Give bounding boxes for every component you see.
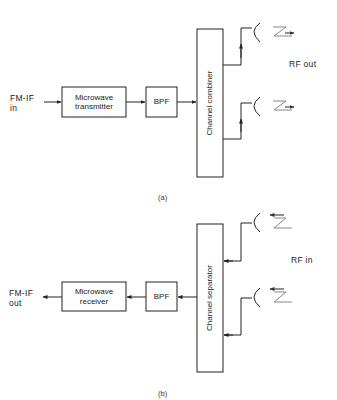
fm-if-in-label: FM-IF in	[10, 94, 34, 113]
fm-if-out-label: FM-IF out	[9, 289, 33, 308]
receiver-line1: Microwave	[75, 287, 113, 297]
wave-icon-upper	[273, 27, 292, 36]
antenna-dish-lower-b	[254, 288, 260, 307]
antenna-dish-lower	[254, 97, 260, 116]
receiver-label: Microwave receiver	[62, 282, 126, 311]
antenna-dish-upper	[254, 23, 260, 42]
fm-if-in-line2: in	[10, 104, 34, 114]
wave-icon-upper-b	[274, 218, 292, 228]
combiner-label: Channel combiner	[205, 53, 215, 153]
transmitter-label: Microwave transmitter	[62, 87, 126, 117]
caption-b: (b)	[158, 389, 167, 398]
receiver-line2: receiver	[75, 297, 113, 307]
diagram-canvas	[0, 0, 337, 400]
transmitter-line2: transmitter	[75, 102, 113, 112]
separator-label: Channel separator	[205, 248, 215, 348]
transmitter-line1: Microwave	[75, 93, 113, 103]
rf-out-label: RF out	[289, 60, 316, 70]
bpf-label-b: BPF	[146, 282, 177, 311]
fm-if-out-line2: out	[9, 299, 33, 309]
feed-line-upper	[223, 28, 252, 65]
feed-line-lower-b	[224, 298, 252, 335]
antenna-dish-upper-b	[254, 213, 260, 232]
feed-line-lower	[223, 103, 252, 139]
bpf-label-a: BPF	[146, 87, 177, 117]
feed-line-upper-b	[224, 223, 252, 261]
wave-icon-lower-b	[274, 292, 292, 302]
caption-a: (a)	[158, 193, 167, 202]
rf-in-label: RF in	[291, 256, 313, 266]
wave-icon-lower	[273, 101, 292, 110]
